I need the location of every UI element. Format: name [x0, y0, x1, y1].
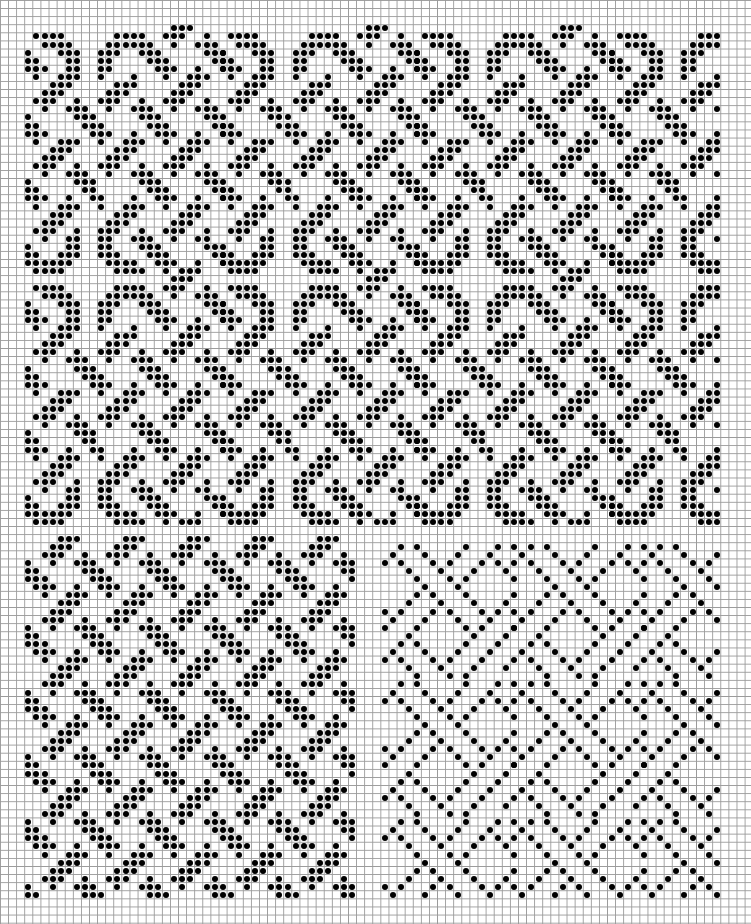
pattern-dot — [528, 657, 534, 663]
pattern-dot — [382, 657, 388, 663]
pattern-dot — [414, 819, 420, 825]
pattern-dot — [600, 706, 606, 712]
pattern-dot — [641, 730, 647, 736]
pattern-dot — [455, 649, 461, 655]
bottom-right-lattice-panel — [0, 0, 751, 924]
pattern-dot — [714, 860, 720, 866]
grid-paper-sheet — [0, 0, 751, 924]
pattern-dot — [641, 884, 647, 890]
pattern-dot — [633, 706, 639, 712]
pattern-dot — [528, 795, 534, 801]
pattern-dot — [673, 592, 679, 598]
pattern-dot — [665, 876, 671, 882]
pattern-dot — [600, 876, 606, 882]
pattern-dot — [714, 722, 720, 728]
pattern-dot — [641, 560, 647, 566]
pattern-dot — [600, 568, 606, 574]
pattern-dot — [576, 673, 582, 679]
pattern-dot — [625, 544, 631, 550]
pattern-dot — [625, 835, 631, 841]
pattern-dot — [544, 576, 550, 582]
pattern-dot — [633, 771, 639, 777]
pattern-dot — [519, 787, 525, 793]
pattern-dot — [495, 560, 501, 566]
pattern-dot — [592, 819, 598, 825]
pattern-dot — [584, 860, 590, 866]
pattern-dot — [698, 803, 704, 809]
pattern-dot — [455, 617, 461, 623]
pattern-dot — [503, 665, 509, 671]
pattern-dot — [690, 592, 696, 598]
pattern-dot — [414, 681, 420, 687]
pattern-dot — [438, 665, 444, 671]
pattern-dot — [584, 690, 590, 696]
pattern-dot — [617, 787, 623, 793]
pattern-dot — [447, 609, 453, 615]
pattern-dot — [447, 673, 453, 679]
pattern-dot — [390, 552, 396, 558]
pattern-dot — [455, 860, 461, 866]
pattern-dot — [544, 714, 550, 720]
pattern-dot — [633, 876, 639, 882]
pattern-dot — [649, 754, 655, 760]
pattern-dot — [422, 552, 428, 558]
pattern-dot — [511, 852, 517, 858]
pattern-dot — [503, 876, 509, 882]
pattern-dot — [544, 673, 550, 679]
pattern-dot — [552, 617, 558, 623]
pattern-dot — [471, 803, 477, 809]
pattern-dot — [455, 827, 461, 833]
pattern-dot — [382, 795, 388, 801]
pattern-dot — [641, 657, 647, 663]
pattern-dot — [447, 746, 453, 752]
pattern-dot — [714, 754, 720, 760]
pattern-dot — [560, 657, 566, 663]
pattern-dot — [681, 754, 687, 760]
pattern-dot — [447, 698, 453, 704]
pattern-dot — [592, 681, 598, 687]
pattern-dot — [438, 843, 444, 849]
pattern-dot — [398, 641, 404, 647]
pattern-dot — [479, 560, 485, 566]
pattern-dot — [463, 868, 469, 874]
pattern-dot — [568, 876, 574, 882]
pattern-dot — [487, 892, 493, 898]
pattern-dot — [592, 592, 598, 598]
pattern-dot — [495, 746, 501, 752]
pattern-dot — [641, 868, 647, 874]
pattern-dot — [414, 592, 420, 598]
pattern-dot — [673, 852, 679, 858]
pattern-dot — [511, 714, 517, 720]
pattern-dot — [528, 609, 534, 615]
pattern-dot — [706, 609, 712, 615]
pattern-dot — [463, 641, 469, 647]
pattern-dot — [552, 827, 558, 833]
pattern-dot — [382, 835, 388, 841]
pattern-dot — [430, 730, 436, 736]
pattern-dot — [511, 762, 517, 768]
pattern-dot — [479, 884, 485, 890]
pattern-dot — [690, 795, 696, 801]
pattern-dot — [414, 673, 420, 679]
pattern-dot — [673, 673, 679, 679]
pattern-dot — [471, 706, 477, 712]
pattern-dot — [511, 746, 517, 752]
pattern-dot — [528, 746, 534, 752]
pattern-dot — [471, 771, 477, 777]
pattern-dot — [463, 819, 469, 825]
pattern-dot — [422, 649, 428, 655]
pattern-dot — [641, 819, 647, 825]
pattern-dot — [479, 746, 485, 752]
pattern-dot — [657, 835, 663, 841]
pattern-dot — [641, 714, 647, 720]
pattern-dot — [560, 746, 566, 752]
pattern-dot — [430, 657, 436, 663]
pattern-dot — [528, 698, 534, 704]
pattern-dot — [511, 544, 517, 550]
pattern-dot — [479, 609, 485, 615]
pattern-dot — [560, 609, 566, 615]
pattern-dot — [511, 835, 517, 841]
pattern-dot — [511, 730, 517, 736]
pattern-dot — [544, 819, 550, 825]
pattern-dot — [609, 698, 615, 704]
